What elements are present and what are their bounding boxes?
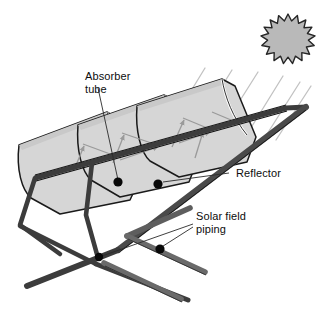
base-rail [20, 226, 96, 264]
solar-trough-diagram: Absorber tube Reflector Solar field pipi… [0, 0, 324, 309]
solar-field-piping [104, 208, 206, 302]
absorber-tube-label-line1: Absorber [85, 70, 131, 82]
diagram-canvas: Absorber tube Reflector Solar field pipi… [0, 0, 324, 309]
sun-icon [261, 14, 315, 64]
callout-dot-icon-reflector [153, 179, 162, 188]
piping-upper-branch [127, 208, 190, 236]
solar-field-piping-label-line1: Solar field [196, 210, 246, 222]
piping-lower-run-2 [104, 263, 181, 299]
callout-dot-icon-piping-left [95, 253, 103, 261]
absorber-tube-label-line2: tube [85, 83, 107, 95]
callout-dot-icon-piping-right [155, 244, 164, 253]
solar-field-piping-label-line2: piping [196, 223, 226, 235]
piping-lower-run-1 [127, 236, 205, 272]
reflector-label: Reflector [236, 167, 281, 179]
callout-dot-icon-absorber [113, 177, 122, 186]
